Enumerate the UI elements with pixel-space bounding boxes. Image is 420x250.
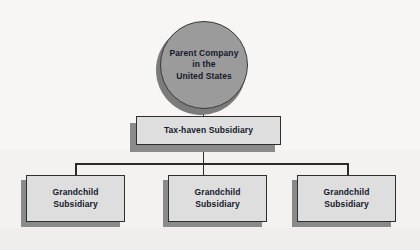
tax-haven-subsidiary-box[interactable]: Tax-haven Subsidiary [136,116,281,145]
grandchild-subsidiary-1-line-1: Grandchild [53,187,99,199]
parent-company-line-2: in the [192,59,215,71]
parent-company-circle[interactable]: Parent Company in the United States [160,21,248,109]
node-grandchild-subsidiary-2[interactable]: Grandchild Subsidiary [163,175,267,227]
grandchild-subsidiary-2-box[interactable]: Grandchild Subsidiary [168,175,267,222]
grandchild-subsidiary-2-line-1: Grandchild [195,187,241,199]
grandchild-subsidiary-3-line-2: Subsidiary [324,199,368,211]
node-grandchild-subsidiary-1[interactable]: Grandchild Subsidiary [21,175,125,227]
grandchild-subsidiary-2-line-2: Subsidiary [195,199,239,211]
tax-haven-subsidiary-label: Tax-haven Subsidiary [164,125,253,137]
grandchild-subsidiary-3-line-1: Grandchild [324,187,370,199]
grandchild-subsidiary-3-box[interactable]: Grandchild Subsidiary [297,175,396,222]
connector-bus-horizontal [75,163,348,165]
grandchild-subsidiary-1-line-2: Subsidiary [53,199,97,211]
grandchild-subsidiary-1-box[interactable]: Grandchild Subsidiary [26,175,125,222]
parent-company-line-1: Parent Company [170,48,239,60]
node-grandchild-subsidiary-3[interactable]: Grandchild Subsidiary [292,175,396,227]
node-tax-haven-subsidiary[interactable]: Tax-haven Subsidiary [130,116,282,152]
parent-company-line-3: United States [176,71,232,83]
background-band-bottom [0,228,420,250]
diagram-canvas: Parent Company in the United States Tax-… [0,0,420,250]
node-parent-company[interactable]: Parent Company in the United States [156,21,250,115]
